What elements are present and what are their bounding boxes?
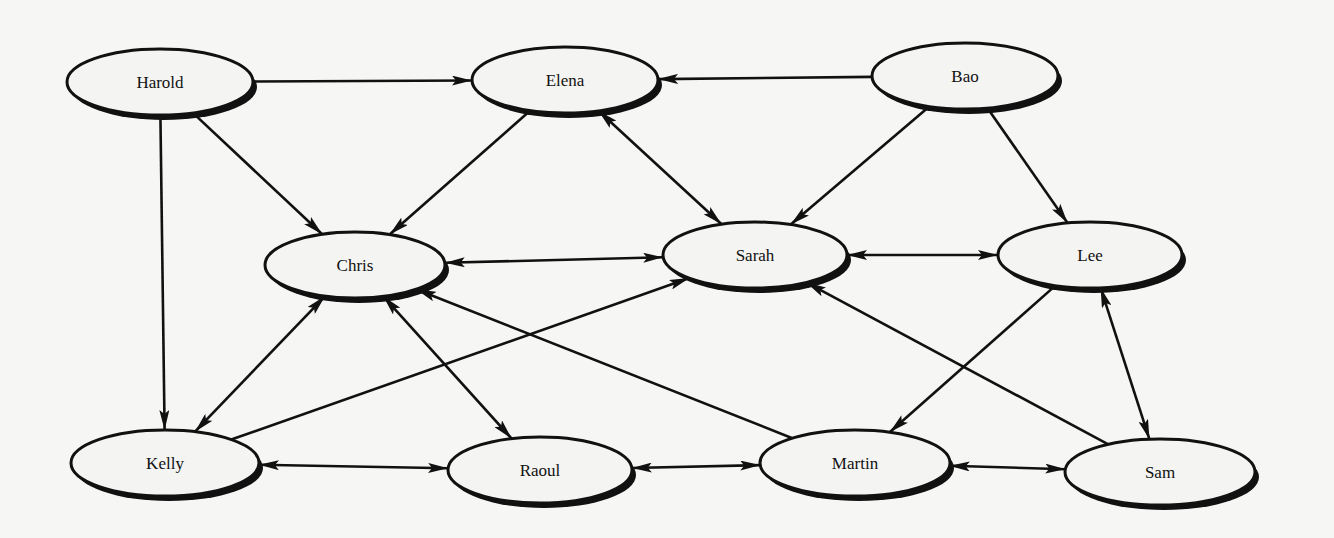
nodes-layer: HaroldElenaBaoChrisSarahLeeKellyRaoulMar… — [67, 43, 1259, 510]
node-raoul[interactable]: Raoul — [448, 437, 636, 508]
edge-kelly-raoul-bidirectional-arrow — [259, 465, 448, 469]
graph-canvas: HaroldElenaBaoChrisSarahLeeKellyRaoulMar… — [0, 0, 1334, 538]
node-label: Elena — [546, 71, 585, 90]
edge-harold-kelly-arrow — [160, 115, 164, 430]
edge-kelly-sarah-arrow — [231, 278, 689, 440]
node-martin[interactable]: Martin — [760, 430, 954, 501]
edge-chris-sarah-bidirectional-arrow — [445, 257, 663, 263]
edge-lee-martin-arrow — [890, 286, 1056, 433]
edge-harold-chris-arrow — [193, 113, 322, 234]
node-label: Chris — [337, 256, 374, 275]
edge-sam-sarah-arrow — [806, 282, 1108, 444]
node-kelly[interactable]: Kelly — [71, 430, 263, 501]
node-label: Lee — [1077, 246, 1102, 265]
edge-martin-chris-arrow — [416, 289, 792, 438]
edge-bao-elena-arrow — [658, 77, 872, 79]
node-elena[interactable]: Elena — [472, 47, 662, 118]
node-bao[interactable]: Bao — [872, 43, 1062, 114]
node-sam[interactable]: Sam — [1065, 439, 1259, 510]
node-label: Sam — [1145, 463, 1175, 482]
edge-lee-sam-bidirectional-arrow — [1101, 288, 1150, 439]
edge-bao-lee-arrow — [987, 108, 1067, 223]
edge-martin-sam-bidirectional-arrow — [950, 466, 1066, 469]
node-label: Martin — [832, 454, 879, 473]
social-graph-diagram: HaroldElenaBaoChrisSarahLeeKellyRaoulMar… — [0, 0, 1334, 538]
node-label: Harold — [136, 73, 184, 92]
node-label: Sarah — [736, 246, 775, 265]
edge-elena-chris-arrow — [390, 111, 531, 235]
edge-harold-elena-arrow — [253, 81, 472, 82]
node-label: Raoul — [520, 461, 561, 480]
node-label: Bao — [951, 67, 978, 86]
node-label: Kelly — [146, 454, 184, 473]
node-lee[interactable]: Lee — [998, 222, 1186, 293]
node-harold[interactable]: Harold — [67, 49, 257, 120]
node-chris[interactable]: Chris — [265, 232, 449, 303]
node-sarah[interactable]: Sarah — [663, 222, 851, 293]
edge-chris-raoul-bidirectional-arrow — [383, 296, 511, 438]
edge-elena-sarah-bidirectional-arrow — [598, 111, 721, 224]
edge-raoul-martin-bidirectional-arrow — [632, 465, 760, 468]
edge-bao-sarah-arrow — [791, 107, 930, 225]
edge-chris-kelly-bidirectional-arrow — [195, 296, 325, 432]
